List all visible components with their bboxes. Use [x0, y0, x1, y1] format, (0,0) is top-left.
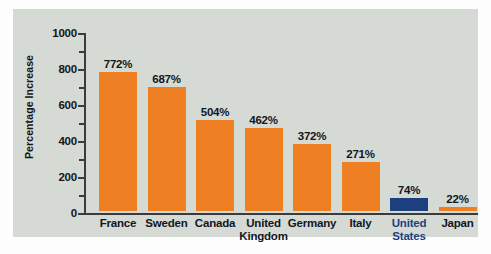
bar-canada[interactable]	[196, 120, 234, 211]
plot-area: 772%687%504%462%372%271%74%22%	[84, 33, 478, 215]
bar-united-states[interactable]	[390, 198, 428, 211]
x-label-japan: Japan	[428, 217, 488, 230]
bar-group[interactable]: 22%	[439, 189, 477, 211]
bar-value-label: 772%	[104, 58, 133, 70]
bar-group[interactable]: 504%	[196, 102, 234, 211]
y-tick-label: 200	[58, 171, 77, 183]
y-axis-tick-labels: 10008006004002000	[27, 33, 77, 215]
bar-united-kingdom[interactable]	[245, 128, 283, 211]
bar-value-label: 372%	[298, 130, 327, 142]
bar-group[interactable]: 462%	[245, 110, 283, 211]
bar-value-label: 271%	[346, 148, 375, 160]
bar-group[interactable]: 271%	[342, 144, 380, 211]
y-tick-label: 400	[58, 135, 77, 147]
bar-group[interactable]: 687%	[148, 69, 186, 211]
y-tick-major	[78, 213, 85, 215]
bar-value-label: 687%	[152, 73, 181, 85]
bar-sweden[interactable]	[148, 87, 186, 211]
x-label-line: Kingdom	[234, 230, 294, 243]
chart-figure: Percentage Increase 10008006004002000 77…	[0, 0, 491, 254]
bar-value-label: 22%	[446, 193, 468, 205]
chart-panel: Percentage Increase 10008006004002000 77…	[13, 9, 478, 237]
bar-value-label: 462%	[249, 114, 278, 126]
bar-value-label: 74%	[398, 184, 420, 196]
bar-series: 772%687%504%462%372%271%74%22%	[84, 33, 478, 213]
bar-group[interactable]: 772%	[99, 54, 137, 211]
bar-germany[interactable]	[293, 144, 331, 211]
y-tick-label: 0	[71, 207, 77, 219]
bar-group[interactable]: 74%	[390, 180, 428, 211]
x-axis-line	[84, 213, 478, 215]
x-label-line: Japan	[428, 217, 488, 230]
y-tick-label: 1000	[52, 27, 77, 39]
bar-japan[interactable]	[439, 207, 477, 211]
x-label-line: States	[379, 230, 439, 243]
x-axis-category-labels: FranceSwedenCanadaUnitedKingdomGermanyIt…	[84, 217, 478, 254]
y-tick-label: 600	[58, 99, 77, 111]
bar-italy[interactable]	[342, 162, 380, 211]
y-tick-label: 800	[58, 63, 77, 75]
bar-value-label: 504%	[201, 106, 230, 118]
bar-group[interactable]: 372%	[293, 126, 331, 211]
bar-france[interactable]	[99, 72, 137, 211]
